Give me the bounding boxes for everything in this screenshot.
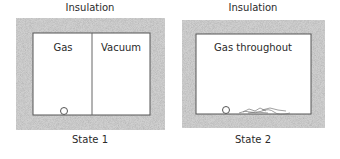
state2-gas-label: Gas throughout (214, 42, 292, 53)
state2-label: State 2 (235, 134, 271, 145)
state2-container (182, 20, 325, 128)
state1-gas-label: Gas (53, 42, 72, 53)
state1-ball (61, 108, 68, 115)
state1-container (16, 18, 165, 130)
state1-label: State 1 (72, 134, 108, 145)
state1-vacuum-label: Vacuum (101, 42, 141, 53)
state1-insulation-label: Insulation (66, 2, 115, 13)
diagram-canvas (0, 0, 340, 159)
state2-ball (223, 107, 230, 114)
state2-insulation-label: Insulation (229, 2, 278, 13)
